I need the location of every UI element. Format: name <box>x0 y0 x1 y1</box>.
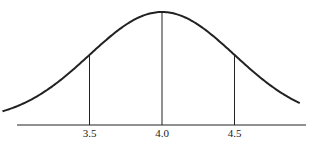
x-tick-label-4-0: 4.0 <box>155 126 169 140</box>
x-tick-label-3-5: 3.5 <box>83 126 97 140</box>
bell-curve <box>3 12 300 111</box>
x-tick-label-4-5: 4.5 <box>228 126 242 140</box>
